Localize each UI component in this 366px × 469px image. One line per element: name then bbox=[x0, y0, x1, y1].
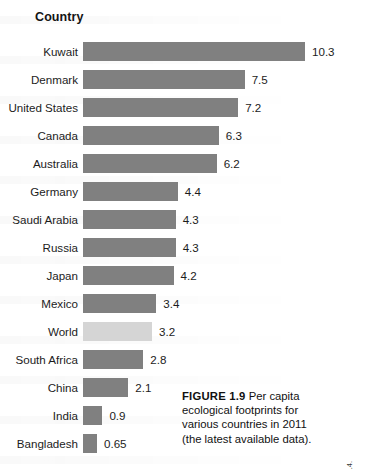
bar-category-label: Denmark bbox=[0, 72, 78, 87]
bar-category-label: Kuwait bbox=[0, 44, 78, 59]
bar-row: Russia4.3 bbox=[0, 238, 366, 266]
bar bbox=[83, 350, 143, 369]
bar-category-label: China bbox=[0, 380, 78, 395]
figure-credit-line: Compiled by the authors using data from … bbox=[345, 461, 354, 469]
bar-row: Japan4.2 bbox=[0, 266, 366, 294]
figure-caption-number: FIGURE 1.9 bbox=[182, 390, 246, 402]
bar-category-label: South Africa bbox=[0, 352, 78, 367]
bar-category-label: United States bbox=[0, 100, 78, 115]
bar-category-label: Australia bbox=[0, 156, 78, 171]
bar-value-label: 6.2 bbox=[224, 156, 240, 171]
bar-row: Mexico3.4 bbox=[0, 294, 366, 322]
bar-value-label: 6.3 bbox=[226, 128, 242, 143]
figure-caption: FIGURE 1.9 Per capita ecological footpri… bbox=[182, 389, 322, 446]
bar-row: Germany4.4 bbox=[0, 182, 366, 210]
bar bbox=[83, 182, 178, 201]
bar-category-label: Japan bbox=[0, 268, 78, 283]
bar-value-label: 4.4 bbox=[185, 184, 201, 199]
bar-value-label: 3.2 bbox=[159, 324, 175, 339]
bar bbox=[83, 126, 219, 145]
bar bbox=[83, 70, 245, 89]
bar bbox=[83, 238, 176, 257]
bar-category-label: Bangladesh bbox=[0, 436, 78, 451]
bar-value-label: 0.65 bbox=[104, 436, 127, 451]
bar-value-label: 2.1 bbox=[135, 380, 151, 395]
bar-row: Australia6.2 bbox=[0, 154, 366, 182]
bar-row: South Africa2.8 bbox=[0, 350, 366, 378]
bar-category-label: Mexico bbox=[0, 296, 78, 311]
bar-value-label: 0.9 bbox=[109, 408, 125, 423]
axis-title-country: Country bbox=[35, 10, 84, 24]
bar bbox=[83, 434, 97, 453]
bar-value-label: 4.3 bbox=[183, 240, 199, 255]
bar bbox=[83, 42, 305, 61]
bar bbox=[83, 378, 128, 397]
bar-category-label: Canada bbox=[0, 128, 78, 143]
bar bbox=[83, 294, 156, 313]
bar-value-label: 4.2 bbox=[181, 268, 197, 283]
bar bbox=[83, 322, 152, 341]
bar-value-label: 7.2 bbox=[245, 100, 261, 115]
bar-row: Saudi Arabia4.3 bbox=[0, 210, 366, 238]
bar bbox=[83, 98, 238, 117]
bar-category-label: Russia bbox=[0, 240, 78, 255]
bar-category-label: India bbox=[0, 408, 78, 423]
bar-value-label: 4.3 bbox=[183, 212, 199, 227]
figure-1-9: Country Kuwait10.3Denmark7.5United State… bbox=[0, 0, 366, 469]
bar-row: Denmark7.5 bbox=[0, 70, 366, 98]
bar-category-label: Saudi Arabia bbox=[0, 212, 78, 227]
bar bbox=[83, 154, 217, 173]
bar-category-label: Germany bbox=[0, 184, 78, 199]
bar-category-label: World bbox=[0, 324, 78, 339]
bar-row: World3.2 bbox=[0, 322, 366, 350]
bar bbox=[83, 406, 102, 425]
bar-row: Kuwait10.3 bbox=[0, 42, 366, 70]
bar bbox=[83, 210, 176, 229]
bar bbox=[83, 266, 174, 285]
bar-row: United States7.2 bbox=[0, 98, 366, 126]
bar-value-label: 7.5 bbox=[252, 72, 268, 87]
bar-value-label: 10.3 bbox=[312, 44, 335, 59]
bar-value-label: 2.8 bbox=[150, 352, 166, 367]
bar-row: Canada6.3 bbox=[0, 126, 366, 154]
bar-value-label: 3.4 bbox=[163, 296, 179, 311]
